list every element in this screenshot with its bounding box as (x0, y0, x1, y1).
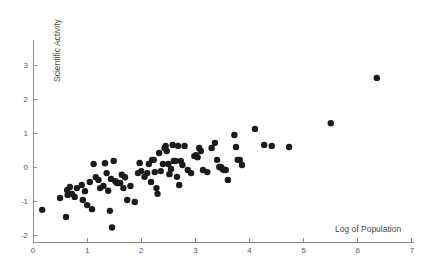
data-point (261, 142, 267, 148)
data-point (80, 197, 86, 203)
y-tick-label: 2 (24, 95, 29, 104)
data-point (95, 177, 101, 183)
data-point (179, 162, 185, 168)
data-point (198, 148, 204, 154)
data-point (100, 183, 106, 189)
data-point (174, 174, 180, 180)
x-tick-label: 2 (139, 246, 144, 255)
data-point (144, 170, 150, 176)
data-point (151, 157, 157, 163)
data-point (156, 150, 162, 156)
data-point (212, 140, 218, 146)
data-point (87, 179, 93, 185)
data-point (164, 148, 170, 154)
data-point (175, 143, 181, 149)
data-point (67, 184, 73, 190)
data-point (204, 169, 210, 175)
data-point (138, 168, 144, 174)
data-point (181, 143, 187, 149)
data-point (158, 168, 164, 174)
data-point (136, 160, 142, 166)
data-point (109, 224, 115, 230)
data-point (82, 188, 88, 194)
y-axis-title: Scientific Activity (52, 18, 62, 82)
data-point (154, 191, 160, 197)
data-point (225, 177, 231, 183)
data-point (233, 144, 239, 150)
data-point (239, 162, 245, 168)
data-point (71, 194, 77, 200)
data-point (79, 182, 85, 188)
x-tick-label: 3 (193, 246, 198, 255)
data-point (90, 161, 96, 167)
data-point (107, 208, 113, 214)
x-tick-label: 0 (31, 246, 36, 255)
data-point (122, 174, 128, 180)
y-tick-label: 1 (24, 129, 29, 138)
data-point (124, 197, 130, 203)
data-point (194, 154, 200, 160)
data-point (105, 188, 111, 194)
plot-canvas: 01234567-2-10123 Log of Population Scien… (0, 0, 428, 273)
data-point (102, 160, 108, 166)
x-tick-label: 1 (85, 246, 90, 255)
data-points-group (39, 75, 380, 231)
data-point (169, 142, 175, 148)
data-point (39, 207, 45, 213)
data-point (103, 170, 109, 176)
data-point (84, 202, 90, 208)
data-point (120, 185, 126, 191)
data-point (328, 120, 334, 126)
data-point (63, 214, 69, 220)
y-tick-label: 3 (24, 61, 29, 70)
data-point (110, 158, 116, 164)
y-tick-label: 0 (24, 163, 29, 172)
data-point (286, 144, 292, 150)
data-point (231, 132, 237, 138)
data-point (269, 143, 275, 149)
data-point (214, 157, 220, 163)
data-point (57, 195, 63, 201)
x-tick-label: 4 (247, 246, 252, 255)
data-point (374, 75, 380, 81)
tick-marks-group (33, 65, 412, 242)
x-tick-label: 5 (301, 246, 306, 255)
y-tick-label: -1 (21, 197, 29, 206)
data-point (132, 199, 138, 205)
data-point (152, 169, 158, 175)
x-axis-title: Log of Population (335, 224, 401, 234)
x-tick-label: 7 (410, 246, 415, 255)
y-tick-label: -2 (21, 231, 29, 240)
data-point (223, 167, 229, 173)
data-point (176, 182, 182, 188)
scatter-plot-figure: 01234567-2-10123 Log of Population Scien… (0, 0, 428, 273)
data-point (127, 183, 133, 189)
data-point (252, 126, 258, 132)
data-point (148, 179, 154, 185)
data-point (153, 185, 159, 191)
x-tick-label: 6 (356, 246, 361, 255)
data-point (188, 170, 194, 176)
data-point (168, 166, 174, 172)
data-point (89, 206, 95, 212)
